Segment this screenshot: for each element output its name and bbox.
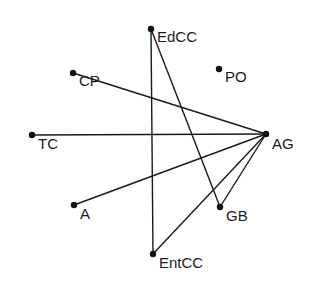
node-tc: TC — [29, 132, 58, 152]
node-dot-icon — [148, 26, 154, 32]
node-dot-icon — [29, 132, 35, 138]
node-label: GB — [226, 207, 248, 224]
edge-entcc-ag — [153, 134, 266, 254]
node-dot-icon — [70, 70, 76, 76]
edge-tc-ag — [32, 134, 266, 135]
nodes-group: EdCCCPPOTCAGAGBEntCC — [29, 26, 294, 271]
node-dot-icon — [263, 131, 269, 137]
node-label: AG — [272, 135, 294, 152]
node-dot-icon — [150, 251, 156, 257]
edge-edcc-gb — [151, 29, 220, 207]
node-dot-icon — [71, 202, 77, 208]
node-ag: AG — [263, 131, 294, 152]
node-gb: GB — [217, 204, 248, 224]
node-entcc: EntCC — [150, 251, 204, 271]
node-dot-icon — [216, 66, 222, 72]
node-label: A — [80, 205, 90, 222]
edge-edcc-entcc — [151, 29, 153, 254]
node-cp: CP — [70, 70, 100, 89]
node-dot-icon — [217, 204, 223, 210]
node-label: PO — [225, 68, 247, 85]
edge-a-ag — [74, 134, 266, 205]
node-label: CP — [79, 72, 100, 89]
node-label: EntCC — [159, 254, 203, 271]
network-diagram: EdCCCPPOTCAGAGBEntCC — [0, 0, 318, 283]
node-a: A — [71, 202, 90, 222]
edge-gb-ag — [220, 134, 266, 207]
node-po: PO — [216, 66, 247, 85]
node-label: EdCC — [157, 28, 197, 45]
node-edcc: EdCC — [148, 26, 197, 45]
node-label: TC — [38, 135, 58, 152]
